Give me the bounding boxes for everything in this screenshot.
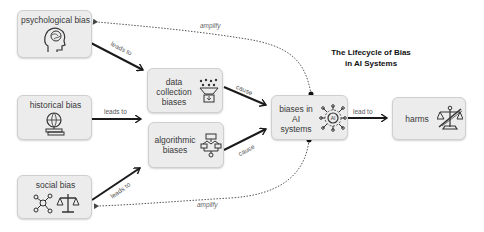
label-line-2: collection — [152, 87, 196, 97]
edge-label-ai-to-harms: lead to — [353, 108, 373, 115]
node-algorithmic-biases: algorithmic biases — [148, 122, 224, 168]
node-harms: harms — [392, 97, 466, 140]
edge-label-hist-to-data: leads to — [104, 108, 127, 115]
network-scales-icon — [32, 192, 80, 216]
node-label: harms — [399, 114, 435, 124]
globe-books-icon — [43, 111, 67, 137]
label-line-2: biases — [151, 145, 199, 155]
label-line-1: algorithmic — [151, 135, 199, 145]
label-line-3: systems — [274, 124, 318, 134]
node-label: data collection biases — [152, 77, 196, 107]
node-biases-in-ai-systems: biases in AI systems AI — [271, 95, 348, 140]
label-line-1: biases in — [274, 104, 318, 114]
node-historical-bias: historical bias — [17, 95, 92, 140]
node-label: social bias — [18, 180, 93, 190]
ai-chip-icon: AI — [319, 104, 347, 132]
node-label: biases in AI systems — [274, 104, 318, 134]
label-line-2: AI — [274, 114, 318, 124]
title-line-2: in AI Systems — [316, 58, 426, 69]
node-label: algorithmic biases — [151, 135, 199, 155]
node-social-bias: social bias — [17, 175, 92, 219]
diagram-title: The Lifecycle of Bias in AI Systems — [316, 47, 426, 69]
node-psychological-bias: psychological bias — [17, 10, 92, 58]
edge-label-ai-to-social: amplify — [197, 201, 218, 208]
title-line-1: The Lifecycle of Bias — [316, 47, 426, 58]
node-data-collection-biases: data collection biases — [147, 68, 223, 113]
edge-label-ai-to-psych: amplify — [200, 22, 221, 29]
label-line-3: biases — [152, 97, 196, 107]
svg-text:AI: AI — [331, 115, 336, 121]
node-label: historical bias — [18, 100, 93, 110]
brain-head-icon — [42, 26, 68, 54]
flowchart-icon — [199, 132, 223, 158]
data-funnel-icon — [198, 78, 220, 104]
broken-scales-icon — [437, 105, 463, 133]
label-line-1: data — [152, 77, 196, 87]
bias-lifecycle-diagram: leads to leads to leads to cause cause l… — [0, 0, 484, 232]
node-label: psychological bias — [18, 15, 93, 25]
